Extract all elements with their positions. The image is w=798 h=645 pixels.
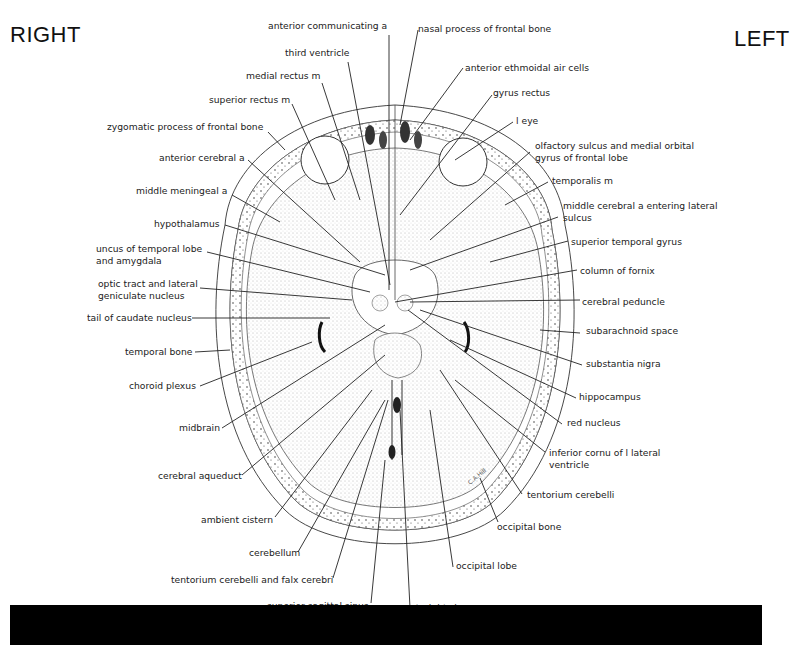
label-optic-tract-line2: geniculate nucleus bbox=[98, 290, 198, 302]
label-anterior-communicating-a: anterior communicating a bbox=[268, 20, 387, 32]
label-inferior-cornu-line1: inferior cornu of l lateral bbox=[549, 447, 660, 459]
label-nasal-process-of-frontal-bone: nasal process of frontal bone bbox=[418, 23, 551, 35]
label-olfactory-sulcus: olfactory sulcus and medial orbital gyru… bbox=[535, 140, 694, 164]
label-hypothalamus: hypothalamus bbox=[154, 218, 220, 230]
label-olfactory-sulcus-line2: gyrus of frontal lobe bbox=[535, 152, 694, 164]
label-tail-of-caudate-nucleus: tail of caudate nucleus bbox=[87, 312, 192, 324]
label-gyrus-rectus: gyrus rectus bbox=[493, 87, 550, 99]
label-inferior-cornu-line2: ventricle bbox=[549, 459, 660, 471]
label-third-ventricle: third ventricle bbox=[285, 47, 349, 59]
label-middle-cerebral-a: middle cerebral a entering lateral sulcu… bbox=[563, 200, 718, 224]
label-superior-rectus-m: superior rectus m bbox=[209, 94, 290, 106]
label-cerebral-aqueduct: cerebral aqueduct bbox=[158, 470, 242, 482]
label-substantia-nigra: substantia nigra bbox=[586, 358, 661, 370]
label-uncus-line2: and amygdala bbox=[96, 255, 202, 267]
label-tentorium-cerebelli-and-falx-cerebri: tentorium cerebelli and falx cerebri bbox=[171, 574, 333, 586]
label-olfactory-sulcus-line1: olfactory sulcus and medial orbital bbox=[535, 140, 694, 152]
label-optic-tract: optic tract and lateral geniculate nucle… bbox=[98, 278, 198, 302]
label-optic-tract-line1: optic tract and lateral bbox=[98, 278, 198, 290]
label-tentorium-cerebelli: tentorium cerebelli bbox=[527, 489, 614, 501]
label-uncus-of-temporal-lobe: uncus of temporal lobe and amygdala bbox=[96, 243, 202, 267]
label-inferior-cornu: inferior cornu of l lateral ventricle bbox=[549, 447, 660, 471]
label-middle-meningeal-a: middle meningeal a bbox=[136, 185, 227, 197]
label-red-nucleus: red nucleus bbox=[567, 417, 621, 429]
label-middle-cerebral-a-line1: middle cerebral a entering lateral bbox=[563, 200, 718, 212]
label-l-eye: l eye bbox=[516, 115, 538, 127]
label-middle-cerebral-a-line2: sulcus bbox=[563, 212, 718, 224]
label-zygomatic-process-of-frontal-bone: zygomatic process of frontal bone bbox=[107, 121, 263, 133]
label-cerebral-peduncle: cerebral peduncle bbox=[582, 296, 665, 308]
label-hippocampus: hippocampus bbox=[579, 391, 641, 403]
label-anterior-cerebral-a: anterior cerebral a bbox=[159, 152, 245, 164]
label-cerebellum: cerebellum bbox=[249, 547, 300, 559]
label-temporal-bone: temporal bone bbox=[125, 346, 192, 358]
label-choroid-plexus: choroid plexus bbox=[129, 380, 196, 392]
label-uncus-line1: uncus of temporal lobe bbox=[96, 243, 202, 255]
label-anterior-ethmoidal-air-cells: anterior ethmoidal air cells bbox=[465, 62, 589, 74]
label-subarachnoid-space: subarachnoid space bbox=[586, 325, 678, 337]
label-column-of-fornix: column of fornix bbox=[580, 265, 655, 277]
label-midbrain: midbrain bbox=[179, 422, 220, 434]
label-superior-temporal-gyrus: superior temporal gyrus bbox=[571, 236, 682, 248]
label-occipital-bone: occipital bone bbox=[497, 521, 561, 533]
bottom-black-bar bbox=[10, 605, 762, 645]
label-ambient-cistern: ambient cistern bbox=[201, 514, 273, 526]
label-temporalis-m: temporalis m bbox=[552, 175, 613, 187]
label-occipital-lobe: occipital lobe bbox=[456, 560, 517, 572]
label-medial-rectus-m: medial rectus m bbox=[246, 70, 320, 82]
